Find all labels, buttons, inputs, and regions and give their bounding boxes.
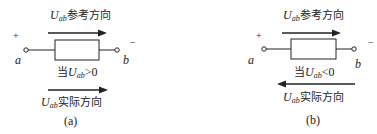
- terminal-a-b: [262, 47, 266, 51]
- reference-direction-label-a: Uab参考方向: [50, 9, 111, 23]
- node-a-label-a: a: [15, 54, 21, 66]
- reference-direction-label-b: Uab参考方向: [283, 9, 344, 23]
- condition-label-b: 当Uab<0: [294, 66, 334, 80]
- node-a-label-b: a: [248, 54, 254, 66]
- plus-sign-b: +: [256, 31, 262, 41]
- resistor-b: [291, 39, 336, 59]
- plus-sign-a: +: [13, 31, 19, 41]
- panel-a-graphics: [24, 30, 119, 94]
- resistor-a: [55, 40, 99, 60]
- minus-sign-a: −: [130, 38, 136, 48]
- actual-arrowhead-a: [99, 87, 108, 94]
- condition-label-a: 当Uab>0: [57, 66, 97, 80]
- node-b-label-b: b: [355, 58, 361, 70]
- caption-a: (a): [64, 115, 77, 127]
- node-b-label-a: b: [123, 54, 129, 66]
- reference-arrowhead-b: [332, 30, 341, 37]
- terminal-a-a: [24, 48, 28, 52]
- actual-direction-label-b: Uab实际方向: [283, 91, 344, 105]
- minus-sign-b: −: [368, 38, 374, 48]
- terminal-b-a: [115, 48, 119, 52]
- actual-direction-label-a: Uab实际方向: [41, 96, 102, 110]
- actual-arrowhead-b: [277, 81, 286, 88]
- reference-arrowhead-a: [98, 30, 107, 37]
- terminal-b-b: [352, 47, 356, 51]
- caption-b: (b): [306, 114, 320, 126]
